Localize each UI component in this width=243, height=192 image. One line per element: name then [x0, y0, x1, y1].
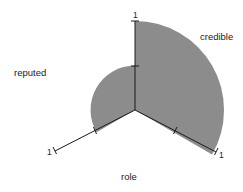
axis-right-max-label: 1 [219, 150, 224, 160]
label-reputed: reputed [14, 67, 46, 78]
axis-up-max-label: 1 [133, 10, 138, 20]
axis-left-max-label: 1 [47, 147, 52, 157]
label-role: role [121, 171, 137, 182]
sector-reputed [91, 66, 135, 133]
label-credible: credible [200, 31, 233, 42]
radar-chart: 1 1 1 credible reputed role [0, 0, 243, 192]
